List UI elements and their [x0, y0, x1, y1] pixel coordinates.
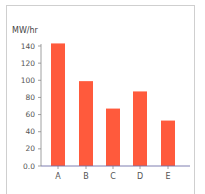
y-tick-label: 20: [25, 144, 35, 153]
x-tick-label: D: [137, 172, 143, 181]
y-tick-label: 60: [25, 110, 35, 119]
x-tick-label: B: [83, 172, 89, 181]
y-axis: 0.020406080100120140: [21, 42, 41, 171]
y-tick-label: 100: [21, 76, 36, 85]
bar-a: [51, 43, 65, 166]
bar-d: [133, 91, 147, 166]
x-axis: ABCDE: [41, 166, 190, 181]
y-tick-label: 140: [21, 42, 36, 51]
y-axis-label: MW/hr: [12, 26, 39, 35]
y-tick-label: 40: [25, 127, 35, 136]
bar-e: [161, 121, 175, 166]
y-tick-label: 120: [21, 59, 36, 68]
y-tick-label: 80: [25, 93, 35, 102]
y-tick-label: 0.0: [23, 162, 35, 171]
bar-b: [79, 81, 93, 166]
bar-c: [106, 109, 120, 166]
x-tick-label: A: [55, 172, 61, 181]
bar-chart: MW/hr 0.020406080100120140 ABCDE: [0, 0, 205, 194]
bars: [51, 43, 175, 166]
x-tick-label: C: [110, 172, 116, 181]
x-tick-label: E: [165, 172, 170, 181]
